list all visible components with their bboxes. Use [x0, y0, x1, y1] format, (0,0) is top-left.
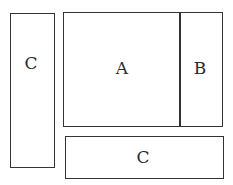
label-left-c: C	[24, 55, 37, 72]
label-b: B	[194, 60, 207, 77]
region-left-c	[10, 13, 55, 168]
divider-a-b	[179, 12, 181, 127]
label-a: A	[116, 60, 128, 77]
label-bottom-c: C	[136, 149, 149, 166]
